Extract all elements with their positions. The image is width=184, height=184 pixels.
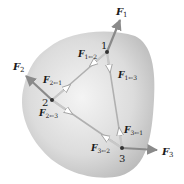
label-f3: F3 [161,146,174,159]
label-f1: F1 [115,6,128,19]
point-2-label: 2 [42,97,48,108]
point-3 [120,146,124,150]
force-diagram: 1 2 3 F1 F2 F3 F1←2 F1←3 F2←1 F2←3 F3←1 … [0,0,184,184]
label-f2: F2 [12,61,25,74]
point-3-label: 3 [119,153,125,164]
point-2 [50,98,54,102]
point-1-label: 1 [101,40,107,51]
